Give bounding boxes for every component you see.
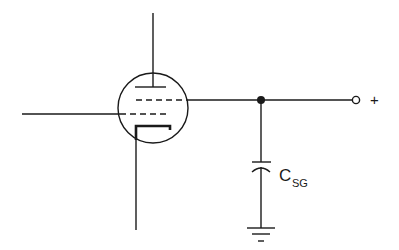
open-terminal bbox=[352, 96, 359, 103]
capacitor-label: C bbox=[279, 166, 291, 185]
capacitor-label-subscript: SG bbox=[292, 177, 308, 189]
ground-icon bbox=[247, 228, 275, 241]
terminal-plus-label: + bbox=[370, 91, 379, 108]
circuit-schematic: + C SG bbox=[0, 0, 399, 250]
cathode bbox=[136, 126, 170, 140]
